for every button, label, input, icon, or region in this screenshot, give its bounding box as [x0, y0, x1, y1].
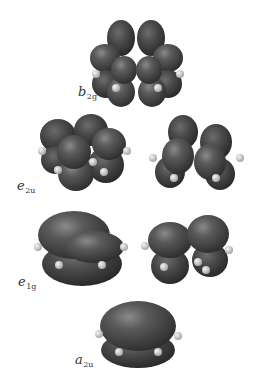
orbital-a2u	[92, 298, 184, 370]
orbital-b2g	[88, 18, 188, 108]
label-a2u: a2u	[75, 352, 94, 369]
orbital-e1g-2	[140, 210, 236, 290]
label-e2u: e2u	[17, 178, 35, 195]
orbital-e2u-1	[36, 110, 132, 195]
label-b2g: b2g	[78, 84, 97, 101]
orbital-e2u-2	[148, 112, 244, 200]
orbital-e1g-1	[34, 207, 130, 289]
label-e1g: e1g	[18, 274, 36, 291]
